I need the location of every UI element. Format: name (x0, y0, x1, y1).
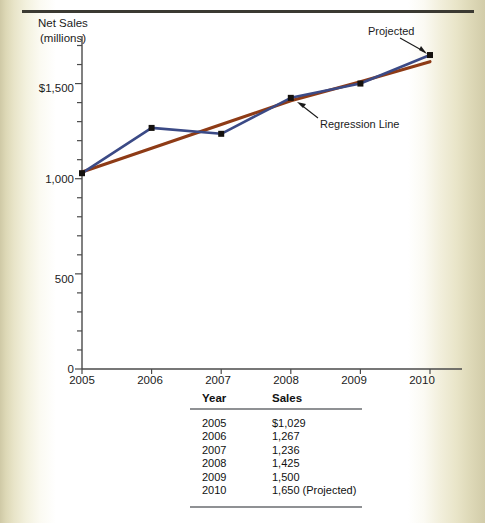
data-point-marker (427, 52, 433, 58)
data-point-marker (288, 95, 294, 101)
table-row: 20101,650 (Projected) (190, 484, 370, 497)
data-point-marker (149, 125, 155, 131)
table-row: 20061,267 (190, 430, 370, 443)
table-header-sales: Sales (264, 392, 370, 404)
data-point-marker (218, 131, 224, 137)
table-body: 2005$1,02920061,26720071,23620081,425200… (190, 417, 370, 497)
table-row: 20091,500 (190, 471, 370, 484)
table-cell-year: 2006 (190, 430, 264, 443)
annotation-leaders (297, 38, 427, 118)
table-cell-sales: $1,029 (264, 417, 370, 430)
table-cell-sales: 1,267 (264, 430, 370, 443)
table-header-row: Year Sales (190, 392, 370, 404)
sales-data-table: Year Sales 2005$1,02920061,26720071,2362… (190, 392, 370, 508)
data-point-marker (79, 170, 85, 176)
y-axis-ticks (75, 46, 82, 369)
table-cell-year: 2007 (190, 444, 264, 457)
table-header-year: Year (190, 392, 264, 404)
table-row: 2005$1,029 (190, 417, 370, 430)
table-cell-year: 2005 (190, 417, 264, 430)
table-bottom-rule (190, 506, 362, 508)
x-axis-ticks (82, 369, 430, 374)
table-cell-sales: 1,500 (264, 471, 370, 484)
table-cell-year: 2008 (190, 457, 264, 470)
table-row: 20081,425 (190, 457, 370, 470)
table-row: 20071,236 (190, 444, 370, 457)
table-header-rule (190, 408, 362, 410)
table-cell-year: 2009 (190, 471, 264, 484)
table-cell-sales: 1,425 (264, 457, 370, 470)
axis-lines (82, 36, 462, 369)
table-cell-year: 2010 (190, 484, 264, 497)
table-cell-sales: 1,650 (Projected) (264, 484, 370, 497)
table-cell-sales: 1,236 (264, 444, 370, 457)
data-point-marker (357, 81, 363, 87)
